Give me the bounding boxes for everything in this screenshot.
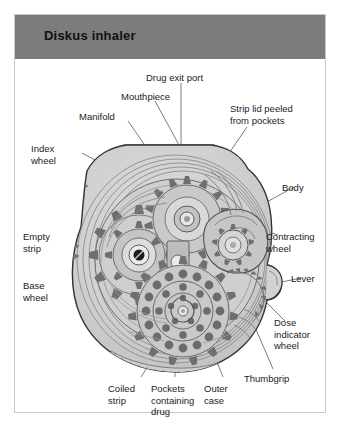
lever <box>266 265 282 300</box>
leader-thumbgrip <box>255 327 273 369</box>
label-body: Body <box>282 182 304 194</box>
label-mouthpiece: Mouthpiece <box>121 91 170 103</box>
label-index-wheel: Index wheel <box>31 143 56 166</box>
panel-header: Diskus inhaler <box>15 15 325 59</box>
label-contracting-wheel: Contracting wheel <box>266 231 315 254</box>
label-outer-case: Outer case <box>204 383 228 406</box>
label-lever: Lever <box>291 273 315 285</box>
figure-panel: Diskus inhaler <box>14 14 326 413</box>
label-pockets-containing-drug: Pockets containing drug <box>151 383 194 418</box>
label-manifold: Manifold <box>79 111 115 123</box>
label-thumbgrip: Thumbgrip <box>244 373 289 385</box>
label-drug-exit-port: Drug exit port <box>146 72 203 84</box>
label-base-wheel: Base wheel <box>23 280 48 303</box>
label-dose-indicator-wheel: Dose indicator wheel <box>274 317 310 352</box>
leader-mouthpiece <box>155 101 179 145</box>
label-empty-strip: Empty strip <box>23 231 50 254</box>
page-title: Diskus inhaler <box>44 28 136 43</box>
contracting-wheel <box>204 209 268 273</box>
diskus-inhaler-figure-page: Diskus inhaler <box>0 0 342 433</box>
inhaler-cutaway-illustration: Drug exit port Mouthpiece Strip lid peel… <box>15 59 325 412</box>
label-coiled-strip: Coiled strip <box>108 383 135 406</box>
label-strip-lid-peeled: Strip lid peeled from pockets <box>230 103 293 126</box>
